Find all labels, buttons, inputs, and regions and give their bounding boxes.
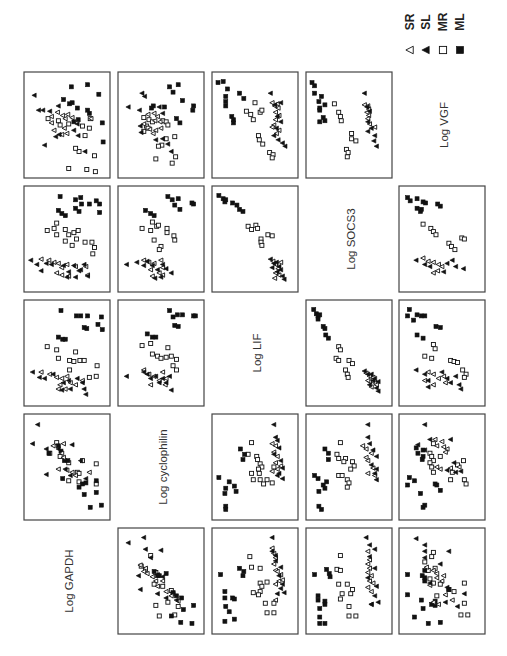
open-square-icon: [270, 234, 274, 238]
open-square-icon: [349, 467, 353, 471]
filled-square-icon: [193, 314, 197, 318]
open-square-icon: [248, 555, 252, 559]
open-square-icon: [340, 473, 344, 477]
open-square-icon: [260, 108, 264, 112]
scatter-panel: [399, 300, 485, 406]
open-square-icon: [262, 482, 266, 486]
open-square-icon: [272, 601, 276, 605]
open-square-icon: [70, 243, 74, 247]
open-square-icon: [258, 478, 262, 482]
filled-square-icon: [94, 479, 98, 483]
open-square-icon: [332, 102, 336, 106]
filled-square-icon: [438, 488, 442, 492]
open-square-icon: [149, 341, 153, 345]
open-square-icon: [350, 131, 354, 135]
filled-square-icon: [323, 602, 327, 606]
open-square-icon: [250, 441, 254, 445]
filled-square-icon: [319, 507, 323, 511]
open-square-icon: [347, 604, 351, 608]
scatter-panel: [306, 72, 392, 178]
filled-square-icon: [412, 479, 416, 483]
filled-square-icon: [192, 603, 196, 607]
open-square-icon: [46, 117, 50, 121]
open-square-icon: [428, 577, 432, 581]
open-square-icon: [350, 137, 354, 141]
filled-square-icon: [224, 104, 228, 108]
open-square-icon: [56, 119, 60, 123]
open-square-icon: [261, 142, 265, 146]
filled-square-icon: [190, 621, 194, 625]
panel-frame: [306, 72, 392, 178]
open-square-icon: [462, 581, 466, 585]
filled-square-icon: [238, 447, 242, 451]
filled-square-icon: [419, 492, 423, 496]
open-square-icon: [462, 375, 466, 379]
legend-label: SL: [419, 14, 433, 29]
filled-square-icon: [243, 452, 247, 456]
filled-square-icon: [415, 333, 419, 337]
panel-frame: [212, 72, 298, 178]
filled-square-icon: [227, 480, 231, 484]
filled-square-icon: [242, 97, 246, 101]
filled-square-icon: [318, 108, 322, 112]
filled-square-icon: [79, 314, 83, 318]
variable-label: Log cyclophilin: [157, 429, 169, 504]
open-square-icon: [68, 368, 72, 372]
open-square-icon: [251, 478, 255, 482]
filled-square-icon: [224, 198, 228, 202]
open-square-icon: [345, 485, 349, 489]
filled-square-icon: [241, 458, 245, 462]
open-square-icon: [140, 226, 144, 230]
filled-square-icon: [85, 327, 89, 331]
filled-square-icon: [74, 198, 78, 202]
filled-square-icon: [63, 214, 67, 218]
filled-square-icon: [82, 493, 86, 497]
open-square-icon: [166, 346, 170, 350]
filled-square-icon: [70, 101, 74, 105]
open-square-icon: [256, 467, 260, 471]
filled-square-icon: [421, 336, 425, 340]
open-square-icon: [256, 593, 260, 597]
open-square-icon: [265, 611, 269, 615]
legend-item-mr: MR: [436, 12, 450, 53]
filled-square-icon: [419, 207, 423, 211]
open-square-icon: [94, 462, 98, 466]
open-square-icon: [85, 168, 89, 172]
open-square-icon: [161, 584, 165, 588]
filled-square-icon: [145, 332, 149, 336]
open-square-icon: [152, 238, 156, 242]
open-square-icon: [346, 151, 350, 155]
filled-square-icon: [171, 315, 175, 319]
filled-square-icon: [232, 121, 236, 125]
open-square-icon: [438, 582, 442, 586]
open-square-icon: [338, 115, 342, 119]
open-square-icon: [74, 350, 78, 354]
open-square-icon: [338, 568, 342, 572]
filled-square-icon: [231, 201, 235, 205]
open-square-icon: [270, 481, 274, 485]
open-square-icon: [430, 454, 434, 458]
filled-square-icon: [154, 335, 158, 339]
filled-square-icon: [318, 607, 322, 611]
filled-square-icon: [242, 569, 246, 573]
open-square-icon: [270, 156, 274, 160]
filled-square-icon: [100, 121, 104, 125]
filled-square-icon: [166, 195, 170, 199]
filled-square-icon: [323, 327, 327, 331]
legend-item-ml: ML: [453, 13, 467, 53]
filled-square-icon: [426, 621, 430, 625]
filled-square-icon: [407, 476, 411, 480]
filled-square-icon: [241, 574, 245, 578]
filled-square-icon: [323, 103, 327, 107]
filled-square-icon: [178, 121, 182, 125]
filled-square-icon: [408, 199, 412, 203]
open-square-icon: [431, 550, 435, 554]
filled-square-icon: [75, 106, 79, 110]
filled-square-icon: [326, 451, 330, 455]
filled-square-icon: [438, 620, 442, 624]
filled-square-icon: [313, 84, 317, 88]
filled-square-icon: [62, 98, 66, 102]
filled-square-icon: [168, 309, 172, 313]
filled-square-icon: [99, 315, 103, 319]
filled-square-icon: [312, 308, 316, 312]
